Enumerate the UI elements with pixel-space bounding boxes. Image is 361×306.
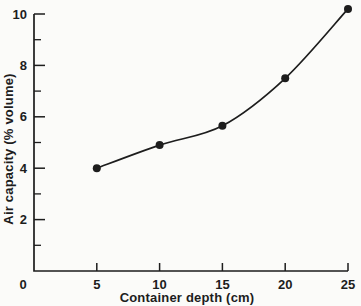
y-tick-label: 6	[20, 109, 27, 124]
axis-spines	[34, 14, 348, 271]
y-axis-title: Air capacity (% volume)	[1, 73, 16, 224]
y-tick-label: 4	[20, 161, 28, 176]
data-curve	[97, 9, 348, 168]
data-point	[156, 141, 164, 149]
axes-layer	[34, 14, 348, 271]
ticks-layer	[34, 14, 348, 271]
x-tick-label: 20	[278, 277, 292, 292]
y-tick-label: 2	[20, 212, 27, 227]
chart: 2468100510152025 Container depth (cm) Ai…	[0, 0, 361, 306]
data-point	[93, 164, 101, 172]
data-point	[218, 122, 226, 130]
origin-label: 0	[19, 277, 26, 292]
data-point	[281, 74, 289, 82]
x-axis-title: Container depth (cm)	[120, 290, 255, 305]
y-tick-label: 10	[13, 7, 27, 22]
tick-labels-layer: 2468100510152025	[13, 7, 356, 293]
y-tick-label: 8	[20, 58, 27, 73]
x-tick-label: 25	[341, 277, 355, 292]
x-tick-label: 5	[93, 277, 100, 292]
series-layer	[93, 5, 352, 172]
figure: 2468100510152025 Container depth (cm) Ai…	[0, 0, 361, 306]
data-point	[344, 5, 352, 13]
